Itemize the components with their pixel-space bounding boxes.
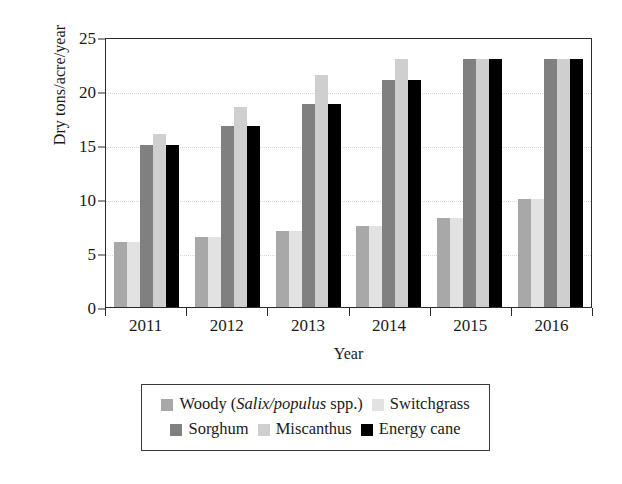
- legend-swatch-icon: [161, 399, 173, 411]
- legend-entry-3[interactable]: Miscanthus: [258, 421, 352, 438]
- x-axis-label-2011: 2011: [105, 316, 186, 336]
- bar-2012-series-2: [221, 126, 234, 307]
- bar-2012-series-3: [234, 107, 247, 307]
- y-tick-0: 0: [45, 308, 105, 309]
- y-tick-25: 25: [45, 38, 105, 39]
- y-tick-10: 10: [45, 200, 105, 201]
- y-tick-mark: [98, 38, 105, 39]
- x-tick-5: [511, 308, 512, 316]
- x-tick-1: [186, 308, 187, 316]
- bar-2011-series-2: [140, 145, 153, 307]
- bar-2014-series-2: [382, 80, 395, 307]
- y-tick-label: 10: [79, 190, 96, 210]
- legend-row-2: SorghumMiscanthusEnergy cane: [152, 417, 479, 442]
- bar-group-2015: [429, 39, 510, 307]
- legend-swatch-icon: [258, 424, 270, 436]
- legend-entry-4[interactable]: Energy cane: [361, 421, 461, 438]
- bar-2015-series-4: [489, 59, 502, 307]
- bar-2013-series-4: [328, 104, 341, 307]
- y-tick-mark: [98, 146, 105, 147]
- legend-label: Sorghum: [188, 421, 248, 438]
- bar-2011-series-4: [166, 145, 179, 307]
- bar-group-2011: [106, 39, 187, 307]
- bar-2014-series-1: [369, 226, 382, 307]
- x-tick-6: [592, 308, 593, 316]
- x-axis-labels: 201120122013201420152016: [105, 316, 592, 336]
- y-tick-20: 20: [45, 92, 105, 93]
- y-tick-label: 20: [79, 82, 96, 102]
- y-tick-5: 5: [45, 254, 105, 255]
- bar-2016-series-4: [570, 59, 583, 307]
- bar-group-2012: [187, 39, 268, 307]
- bar-2013-series-0: [276, 231, 289, 307]
- y-tick-mark: [98, 92, 105, 93]
- legend-swatch-icon: [372, 399, 384, 411]
- y-tick-label: 0: [88, 298, 97, 318]
- bar-groups: [106, 39, 591, 307]
- y-tick-mark: [98, 200, 105, 201]
- bar-2012-series-4: [247, 126, 260, 307]
- bar-2013-series-3: [315, 75, 328, 307]
- y-tick-label: 25: [79, 28, 96, 48]
- legend-row-1: Woody (Salix/populus spp.)Switchgrass: [152, 392, 479, 417]
- bar-2015-series-0: [437, 218, 450, 307]
- x-axis-title: Year: [105, 345, 592, 363]
- bar-2015-series-2: [463, 59, 476, 307]
- bar-group-2013: [268, 39, 349, 307]
- chart-legend: Woody (Salix/populus spp.)Switchgrass So…: [141, 384, 490, 451]
- legend-entry-2[interactable]: Sorghum: [170, 421, 248, 438]
- bar-2011-series-3: [153, 134, 166, 307]
- y-tick-mark: [98, 254, 105, 255]
- x-tick-0: [105, 308, 106, 316]
- y-tick-label: 5: [88, 244, 97, 264]
- x-axis-label-2012: 2012: [186, 316, 267, 336]
- legend-label: Woody (Salix/populus spp.): [179, 396, 362, 413]
- bar-2016-series-3: [557, 59, 570, 307]
- bar-2016-series-1: [531, 199, 544, 307]
- bar-2012-series-0: [195, 237, 208, 307]
- legend-entry-1[interactable]: Switchgrass: [372, 396, 470, 413]
- y-tick-15: 15: [45, 146, 105, 147]
- bar-2012-series-1: [208, 237, 221, 307]
- bar-2011-series-0: [114, 242, 127, 307]
- bar-2016-series-2: [544, 59, 557, 307]
- bar-2013-series-2: [302, 104, 315, 307]
- bar-group-2014: [348, 39, 429, 307]
- y-axis-title: Dry tons/acre/year: [51, 0, 69, 225]
- legend-entry-0[interactable]: Woody (Salix/populus spp.): [161, 396, 362, 413]
- bar-2011-series-1: [127, 242, 140, 307]
- bar-2014-series-4: [408, 80, 421, 307]
- legend-label: Miscanthus: [276, 421, 352, 438]
- legend-label: Switchgrass: [390, 396, 470, 413]
- y-tick-mark: [98, 308, 105, 309]
- x-tick-4: [430, 308, 431, 316]
- bar-2016-series-0: [518, 199, 531, 307]
- x-axis-label-2016: 2016: [511, 316, 592, 336]
- x-tick-3: [349, 308, 350, 316]
- plot-area: 0510152025: [105, 38, 592, 308]
- bar-2015-series-1: [450, 218, 463, 307]
- bar-2013-series-1: [289, 231, 302, 307]
- y-tick-label: 15: [79, 136, 96, 156]
- bar-2014-series-3: [395, 59, 408, 307]
- x-tick-2: [267, 308, 268, 316]
- legend-swatch-icon: [170, 424, 182, 436]
- bar-group-2016: [510, 39, 591, 307]
- x-axis-label-2013: 2013: [267, 316, 348, 336]
- x-axis-label-2015: 2015: [430, 316, 511, 336]
- plot-frame: [105, 38, 592, 308]
- legend-swatch-icon: [361, 424, 373, 436]
- legend-label: Energy cane: [379, 421, 461, 438]
- bar-2014-series-0: [356, 226, 369, 307]
- bar-chart-figure: Dry tons/acre/year 0510152025 2011201220…: [0, 0, 622, 484]
- x-axis-label-2014: 2014: [349, 316, 430, 336]
- bar-2015-series-3: [476, 59, 489, 307]
